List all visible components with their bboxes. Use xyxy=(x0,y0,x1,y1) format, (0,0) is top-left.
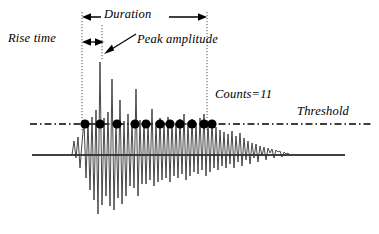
peak-amplitude-arrow xyxy=(104,34,136,54)
rise-time-arrow xyxy=(82,38,104,46)
count-marker xyxy=(112,119,121,128)
count-marker xyxy=(187,119,196,128)
rise-time-label: Rise time xyxy=(8,32,56,45)
count-marker xyxy=(165,119,174,128)
count-marker xyxy=(199,119,208,128)
counts-label: Counts=11 xyxy=(215,88,272,101)
peak-amplitude-label: Peak amplitude xyxy=(137,33,218,46)
count-marker xyxy=(155,119,164,128)
count-marker xyxy=(175,119,184,128)
threshold-label: Threshold xyxy=(297,105,349,118)
count-marker xyxy=(95,119,104,128)
count-marker xyxy=(207,119,216,128)
waveform-trace xyxy=(72,62,290,214)
count-marker xyxy=(130,119,139,128)
count-marker xyxy=(141,119,150,128)
acoustic-emission-waveform-figure: Rise time Duration Peak amplitude Counts… xyxy=(0,0,379,234)
duration-label: Duration xyxy=(104,8,151,21)
count-marker xyxy=(80,119,89,128)
